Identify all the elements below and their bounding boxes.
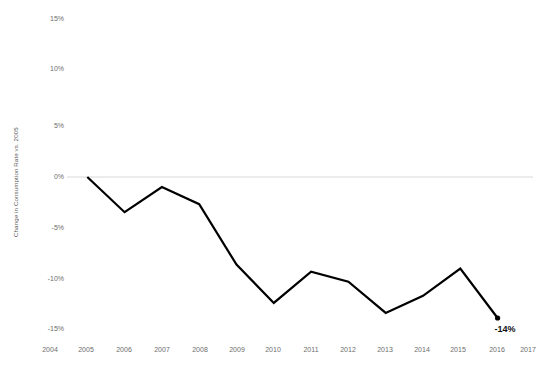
data-series-line: [87, 177, 497, 318]
line-chart: Change in Consumption Rate vs. 2005 15% …: [0, 0, 546, 369]
last-point-marker: [495, 315, 500, 320]
last-point-data-label: -14%: [495, 324, 516, 334]
plot-area: [0, 0, 546, 369]
